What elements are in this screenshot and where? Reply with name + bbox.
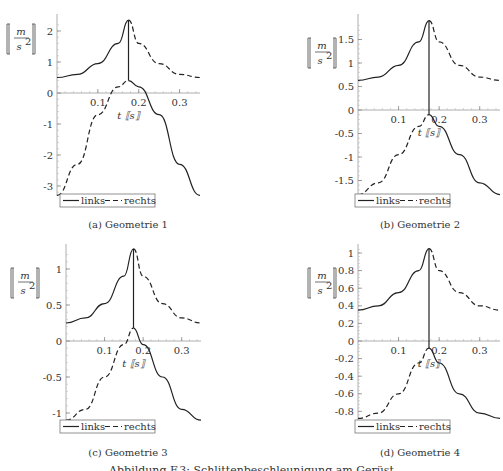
x-axis-label: t ⟦s⟧ <box>122 358 145 369</box>
subfigure-caption: (d) Geometrie 4 <box>380 447 460 458</box>
y-tick-label: -0.6 <box>335 388 354 399</box>
svg-text:2: 2 <box>326 50 332 61</box>
y-tick-label: -0.5 <box>335 128 354 139</box>
svg-text:s: s <box>20 285 25 296</box>
legend: linksrechts <box>60 194 156 207</box>
y-tick-label: -0.8 <box>335 406 354 417</box>
svg-text:2: 2 <box>29 280 35 291</box>
svg-text:s: s <box>317 285 322 296</box>
chart-panel-b: -1.5-1-0.500.511.50.10.20.3t ⟦s⟧ms2links… <box>308 14 500 230</box>
x-tick-label: 0.3 <box>472 114 488 125</box>
x-tick-label: 0.3 <box>174 345 190 356</box>
svg-text:2: 2 <box>326 280 332 291</box>
x-axis-label: t ⟦s⟧ <box>117 110 140 121</box>
y-tick-label: 0 <box>348 336 354 347</box>
x-tick-label: 0.1 <box>90 97 106 108</box>
legend: linksrechts <box>355 194 451 207</box>
legend-label-links: links <box>81 195 105 206</box>
y-tick-label: 0.6 <box>338 283 354 294</box>
y-tick-label: -3 <box>43 181 53 192</box>
y-tick-label: -0.2 <box>335 353 354 364</box>
svg-text:s: s <box>16 41 21 52</box>
y-axis-label: ms2 <box>308 268 336 298</box>
y-axis-label: ms2 <box>308 38 336 68</box>
legend-label-rechts: rechts <box>124 421 156 432</box>
legend: linksrechts <box>60 420 156 433</box>
y-tick-label: -0.4 <box>335 371 354 382</box>
x-tick-label: 0.2 <box>131 97 147 108</box>
x-tick-label: 0.3 <box>172 97 188 108</box>
y-tick-label: 0.4 <box>338 300 354 311</box>
x-axis-label: t ⟦s⟧ <box>418 358 441 369</box>
y-tick-label: 0.8 <box>338 265 354 276</box>
y-tick-label: 0.2 <box>338 318 354 329</box>
chart-panel-c: -1-0.500.510.10.20.3t ⟦s⟧ms2linksrechts(… <box>11 244 201 458</box>
legend: linksrechts <box>355 420 451 433</box>
legend-label-links: links <box>376 421 400 432</box>
y-tick-label: 0 <box>47 88 53 99</box>
y-tick-label: 1 <box>47 57 53 68</box>
y-tick-label: -1 <box>52 408 62 419</box>
legend-label-links: links <box>376 195 400 206</box>
x-axis-label: t ⟦s⟧ <box>418 127 441 138</box>
y-tick-label: -0.5 <box>43 372 62 383</box>
y-tick-label: 1 <box>56 264 62 275</box>
y-tick-label: -1.5 <box>335 175 354 186</box>
y-axis-label: ms2 <box>7 24 35 54</box>
svg-text:2: 2 <box>25 36 31 47</box>
figure-panels: -3-2-10120.10.20.3t ⟦s⟧ms2linksrechts(a)… <box>0 0 503 471</box>
y-tick-label: 0.5 <box>338 81 354 92</box>
legend-label-links: links <box>81 421 105 432</box>
y-tick-label: 0.5 <box>46 300 62 311</box>
y-tick-label: -1 <box>344 152 354 163</box>
x-tick-label: 0.1 <box>97 345 113 356</box>
figure-caption: Abbildung F.3: Schlittenbeschleunigung a… <box>0 462 503 471</box>
legend-label-rechts: rechts <box>124 195 156 206</box>
y-tick-label: 1.5 <box>338 34 354 45</box>
y-tick-label: -1 <box>43 119 53 130</box>
y-tick-label: 1 <box>348 58 354 69</box>
chart-panel-a: -3-2-10120.10.20.3t ⟦s⟧ms2linksrechts(a)… <box>7 14 200 230</box>
y-tick-label: 0 <box>348 105 354 116</box>
x-tick-label: 0.3 <box>472 345 488 356</box>
y-tick-label: 1 <box>348 248 354 259</box>
x-tick-label: 0.1 <box>391 345 407 356</box>
x-tick-label: 0.1 <box>391 114 407 125</box>
y-tick-label: 2 <box>47 26 53 37</box>
subfigure-caption: (a) Geometrie 1 <box>88 219 168 230</box>
chart-panel-d: -0.8-0.6-0.4-0.200.20.40.60.810.10.20.3t… <box>308 244 500 458</box>
y-tick-label: -2 <box>43 150 53 161</box>
subfigure-caption: (b) Geometrie 2 <box>380 219 460 230</box>
legend-label-rechts: rechts <box>419 195 451 206</box>
legend-label-rechts: rechts <box>419 421 451 432</box>
y-axis-label: ms2 <box>11 268 39 298</box>
svg-text:s: s <box>317 55 322 66</box>
subfigure-caption: (c) Geometrie 3 <box>88 447 167 458</box>
y-tick-label: 0 <box>56 336 62 347</box>
